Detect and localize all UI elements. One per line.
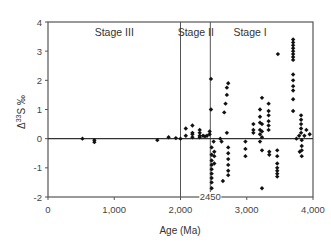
data-point [291,109,295,113]
y-tick-label: 0 [37,133,42,144]
y-tick-label: -2 [34,192,42,203]
data-point [266,123,270,127]
data-point [226,81,230,85]
data-point [266,101,270,105]
data-point [225,93,229,97]
data-point [225,131,229,135]
y-axis-title: Δ33S ‰ [15,95,27,129]
x-tick-label: 2,000 [169,204,193,215]
data-point [243,154,247,158]
data-point [267,153,271,157]
data-point [275,154,279,158]
y-axis-title-main: S ‰ [16,95,27,114]
data-point [243,139,247,143]
data-point [266,109,270,113]
data-point [266,119,270,123]
data-point [211,139,215,143]
data-point [300,154,304,158]
y-tick-label: 1 [37,104,42,115]
x-tick-label: 0 [45,204,50,215]
data-point [222,110,226,114]
data-point [243,147,247,151]
data-point [226,157,230,161]
data-point [226,163,230,167]
data-point [260,96,264,100]
data-point [223,101,227,105]
y-tick-label: -1 [34,162,42,173]
data-point [258,115,262,119]
data-point [80,136,84,140]
data-point [190,123,194,127]
stage-boundary-lines [181,22,211,197]
y-axis-title-sup: 33 [15,114,22,122]
data-point [276,52,280,56]
data-point [266,113,270,117]
data-point [251,131,255,135]
data-point [209,107,213,111]
y-tick-label: 4 [37,17,42,28]
data-point [275,148,279,152]
data-point [299,113,303,117]
data-point [198,128,202,132]
x-tick-label: 4,000 [301,204,325,215]
x-tick-label: 3,000 [235,204,259,215]
data-point [294,136,298,140]
data-point [266,128,270,132]
x-axis-ticks: 01,0002,0003,0004,000 [45,197,325,215]
x-tick-label: 1,000 [102,204,126,215]
data-point [275,161,279,165]
data-point [302,134,306,138]
data-point [258,107,262,111]
data-point [178,136,182,140]
data-point [299,122,303,126]
data-point [291,58,295,62]
data-point [291,78,295,82]
data-point [221,179,225,183]
data-point [226,173,230,177]
y-tick-label: 3 [37,46,42,57]
data-point [291,88,295,92]
data-point [304,128,308,132]
data-point [291,84,295,88]
stage-label: Stage II [178,26,214,38]
data-point [184,134,188,138]
data-point [226,151,230,155]
stage-label: Stage I [233,26,266,38]
data-point [174,136,178,140]
data-point [226,145,230,149]
data-point [209,77,213,81]
data-point [299,118,303,122]
data-point [300,144,304,148]
data-point [225,85,229,89]
data-point [226,169,230,173]
data-points [80,37,312,196]
data-point [260,186,264,190]
data-point [291,72,295,76]
data-point [275,174,279,178]
data-point [260,148,264,152]
data-point [212,150,216,154]
y-tick-label: 2 [37,75,42,86]
data-point [291,97,295,101]
data-point [258,139,262,143]
data-point [299,126,303,130]
x-axis-title: Age (Ma) [159,225,200,236]
data-point [307,132,311,136]
data-point [251,122,255,126]
stage-label: Stage III [95,26,134,38]
scatter-chart: -2-101234 01,0002,0003,0004,000 Stage II… [0,0,331,243]
data-point [184,126,188,130]
boundary-age-label: 2450 [200,191,221,202]
y-axis-ticks: -2-101234 [34,17,48,203]
